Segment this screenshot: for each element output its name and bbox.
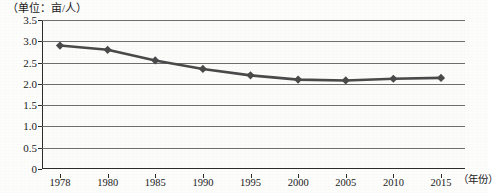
unit-caption: （单位：亩/人） [7,1,87,15]
y-tick-mark [38,169,42,170]
y-axis-labels: 00.51.01.52.02.53.03.5 [8,20,37,169]
x-tick-label: 2010 [383,177,404,189]
y-tick-label: 0 [32,164,38,175]
data-point-marker [151,56,159,64]
x-axis-labels: 197819801985199019952000200520102015 [42,174,465,189]
x-tick-label: 2015 [431,177,452,189]
data-point-marker [342,76,350,84]
series-line-chart [42,20,465,169]
x-axis-title: （年份） [458,174,496,186]
y-tick-label: 2.5 [23,57,37,68]
x-tick-label: 1980 [97,177,118,189]
y-tick-label: 1.0 [23,121,37,132]
x-tick-label: 1995 [240,177,261,189]
data-point-marker [246,71,254,79]
x-tick-label: 1985 [145,177,166,189]
data-point-marker [56,41,64,49]
y-tick-label: 2.0 [23,78,37,89]
data-point-marker [199,65,207,73]
x-tick-label: 1990 [192,177,213,189]
x-tick-label: 2005 [335,177,356,189]
y-tick-label: 0.5 [23,142,37,153]
y-tick-label: 3.0 [23,36,37,47]
data-point-marker [389,75,397,83]
data-point-marker [104,46,112,54]
y-tick-label: 3.5 [23,15,37,26]
x-tick-label: 2000 [288,177,309,189]
y-tick-label: 1.5 [23,100,37,111]
plot-area [42,20,465,169]
x-tick-label: 1978 [50,177,71,189]
data-point-marker [294,76,302,84]
data-point-marker [437,74,445,82]
